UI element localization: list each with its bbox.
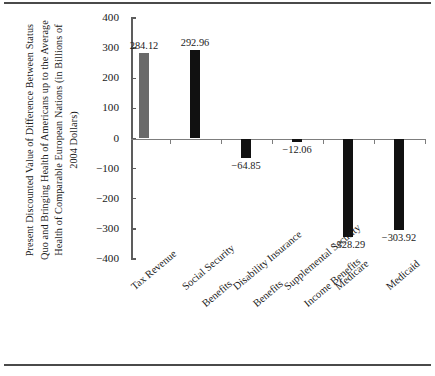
y-axis-tick-label: −100 [79,163,119,174]
x-axis-tick [374,139,375,144]
bar-value-label: −64.85 [216,160,276,171]
x-axis-category-label-line: Benefits [200,278,234,309]
x-axis-category-label-line: Benefits [251,278,285,309]
plot-area: 4003002001000−100−200−300−400 284.12292.… [133,18,425,259]
y-axis-tick-label: −400 [79,253,119,264]
y-axis-tick-label: 200 [79,72,119,83]
chart-figure: Present Discounted Value of Difference B… [0,0,435,376]
x-axis-tick [323,139,324,144]
y-axis-tick-label: 0 [79,133,119,144]
x-axis-tick [221,139,222,144]
y-axis-tick-label: 100 [79,102,119,113]
y-axis-tick [131,228,136,229]
bar-value-label: 292.96 [165,37,225,48]
bottom-divider-rule [4,364,431,366]
x-axis-tick [170,139,171,144]
y-axis-tick [131,198,136,199]
bar[interactable] [241,139,251,159]
y-axis-tick [131,108,136,109]
bar[interactable] [343,139,353,238]
y-axis-tick-label: −200 [79,193,119,204]
y-axis-tick-label: −300 [79,223,119,234]
bar[interactable] [139,53,149,139]
x-axis-tick [272,139,273,144]
y-axis-tick [131,78,136,79]
x-axis-category-label-line: Medicaid [384,258,422,292]
y-axis-tick-label: 300 [79,42,119,53]
bar-value-label: −12.06 [267,144,327,155]
y-axis-tick [131,258,136,259]
top-divider-rule [4,2,431,4]
y-axis-tick [131,168,136,169]
x-axis-tick [425,139,426,144]
bar[interactable] [394,139,404,231]
bar-value-label: −303.92 [369,232,429,243]
y-axis-tick [131,138,136,139]
y-axis-tick [131,17,136,18]
zero-baseline [131,139,425,141]
y-axis-title: Present Discounted Value of Difference B… [23,14,81,266]
y-axis-tick-label: 400 [79,12,119,23]
bar[interactable] [292,139,302,143]
bar[interactable] [190,50,200,138]
